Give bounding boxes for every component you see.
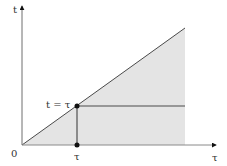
intersection-point [75, 104, 80, 109]
tau-tick-label: τ [74, 151, 80, 162]
t-axis-label: t [13, 4, 17, 15]
point-label: t = τ [46, 99, 71, 110]
region-diagram: t 0 τ τ t = τ [0, 0, 227, 166]
tau-tick-point [75, 143, 80, 148]
tau-axis-label: τ [212, 152, 218, 163]
origin-label: 0 [11, 148, 17, 159]
